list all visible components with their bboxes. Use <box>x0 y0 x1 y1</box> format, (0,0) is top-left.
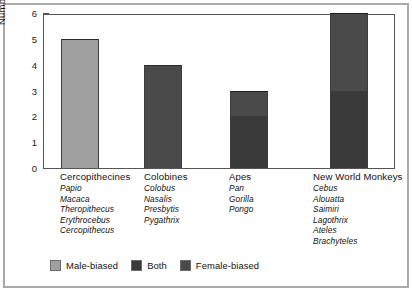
legend-swatch-icon <box>50 260 61 271</box>
category-columns: CercopithecinesPapioMacacaTheropithecusE… <box>43 171 395 251</box>
column-apes: ApesPanGorillaPongo <box>229 171 254 215</box>
y-tick-label: 4 <box>17 61 37 71</box>
y-axis-title: Number of Genera <box>0 0 7 44</box>
legend-item-both: Both <box>131 260 167 271</box>
genus-name: Ateles <box>313 225 403 236</box>
column-cercopithecines: CercopithecinesPapioMacacaTheropithecusE… <box>60 171 130 236</box>
bars-layer <box>44 15 394 168</box>
bar-apes <box>230 91 268 169</box>
bar-segment-male-biased <box>61 39 99 168</box>
genus-name: Pygathrix <box>144 215 188 226</box>
column-title: New World Monkeys <box>313 171 403 183</box>
column-new-world-monkeys: New World MonkeysCebusAlouattaSaimiriLag… <box>313 171 403 247</box>
genus-name: Papio <box>60 183 130 194</box>
y-tick-label: 1 <box>17 138 37 148</box>
genus-name: Alouatta <box>313 194 403 205</box>
legend-swatch-icon <box>180 260 191 271</box>
legend-label: Male-biased <box>66 260 118 271</box>
y-tick-label: 2 <box>17 112 37 122</box>
genus-name: Nasalis <box>144 194 188 205</box>
plot-area <box>43 14 395 169</box>
figure-container: Number of Genera 6543210 Cercopithecines… <box>0 0 412 291</box>
genus-name: Presbytis <box>144 204 188 215</box>
bar-new-world-monkeys <box>330 13 368 168</box>
legend-item-female-biased: Female-biased <box>180 260 259 271</box>
legend-swatch-icon <box>131 260 142 271</box>
genus-name: Erythrocebus <box>60 215 130 226</box>
y-tick-label: 3 <box>17 87 37 97</box>
genus-name: Gorilla <box>229 194 254 205</box>
legend-item-male-biased: Male-biased <box>50 260 118 271</box>
genus-name: Cercopithecus <box>60 225 130 236</box>
bar-colobines <box>144 65 182 168</box>
column-title: Cercopithecines <box>60 171 130 183</box>
bar-segment-female-biased <box>144 65 182 168</box>
column-title: Colobines <box>144 171 188 183</box>
genus-name: Cebus <box>313 183 403 194</box>
bar-segment-both <box>230 116 268 168</box>
bar-segment-both <box>330 91 368 169</box>
legend-label: Both <box>147 260 167 271</box>
genus-name: Brachyteles <box>313 236 403 247</box>
bar-segment-female-biased <box>230 91 268 117</box>
bar-cercopithecines <box>61 39 99 168</box>
bar-segment-female-biased <box>330 13 368 91</box>
genus-name: Macaca <box>60 194 130 205</box>
column-title: Apes <box>229 171 254 183</box>
y-tick-label: 6 <box>17 9 37 19</box>
chart-legend: Male-biasedBothFemale-biased <box>50 258 272 272</box>
genus-name: Pongo <box>229 204 254 215</box>
y-tick-label: 5 <box>17 35 37 45</box>
genus-name: Theropithecus <box>60 204 130 215</box>
genus-name: Colobus <box>144 183 188 194</box>
genus-name: Pan <box>229 183 254 194</box>
genus-name: Lagothrix <box>313 215 403 226</box>
genus-name: Saimiri <box>313 204 403 215</box>
y-tick-label: 0 <box>17 164 37 174</box>
column-colobines: ColobinesColobusNasalisPresbytisPygathri… <box>144 171 188 225</box>
legend-label: Female-biased <box>196 260 259 271</box>
